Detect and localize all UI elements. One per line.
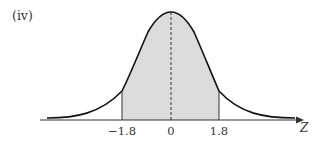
part-label: (iv) [12, 8, 33, 23]
tick-label-1-8: 1.8 [210, 124, 228, 138]
axis-label-z: Z [300, 121, 308, 135]
tick-label-neg-1-8: −1.8 [108, 124, 136, 138]
tick-label-0: 0 [167, 124, 174, 138]
normal-distribution-diagram [0, 0, 318, 143]
